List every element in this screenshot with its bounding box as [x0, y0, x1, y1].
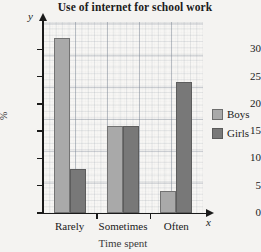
y-axis-tick	[37, 49, 43, 50]
y-axis-tick	[37, 76, 43, 77]
y-axis-tick	[37, 130, 43, 131]
bar-boys-rarely	[54, 38, 70, 213]
bar-girls-sometimes	[123, 126, 139, 213]
x-axis-tick-label: Sometimes	[99, 220, 148, 232]
legend-swatch-icon	[212, 109, 223, 120]
y-axis-arrow-icon	[39, 13, 47, 21]
legend-swatch-icon	[212, 128, 223, 139]
bar-chart-figure: Use of internet for school work y x % Ti…	[0, 0, 261, 252]
bars-layer	[43, 22, 203, 213]
y-axis-tick-label: 25	[227, 70, 261, 82]
bar-girls-often	[176, 82, 192, 213]
x-axis-tick-label: Often	[164, 220, 189, 232]
y-axis-tick-label: 5	[227, 179, 261, 191]
y-axis-tick-label: 20	[227, 97, 261, 109]
y-axis-tick	[37, 212, 43, 213]
y-axis-title: %	[0, 112, 9, 120]
x-axis-title: Time spent	[99, 237, 148, 249]
chart-title: Use of internet for school work	[40, 1, 230, 13]
y-axis-tick	[37, 185, 43, 186]
y-axis-tick-label: 15	[227, 124, 261, 136]
x-axis-line	[43, 213, 209, 215]
y-axis-tick-label: 30	[227, 42, 261, 54]
x-axis-letter: x	[206, 216, 211, 228]
legend-label: Boys	[227, 108, 250, 120]
y-axis-tick	[37, 103, 43, 104]
y-axis-tick	[37, 158, 43, 159]
plot-area	[43, 22, 203, 213]
y-axis-tick-label: 0	[227, 206, 261, 218]
x-axis-tick-label: Rarely	[55, 220, 84, 232]
x-axis-tick	[150, 213, 151, 219]
x-axis-tick	[96, 213, 97, 219]
y-axis-tick-label: 10	[227, 151, 261, 163]
y-axis-letter: y	[28, 10, 33, 22]
bar-boys-sometimes	[107, 126, 123, 213]
bar-boys-often	[160, 191, 176, 213]
bar-girls-rarely	[70, 169, 86, 213]
legend-item-boys[interactable]: Boys	[212, 108, 250, 120]
